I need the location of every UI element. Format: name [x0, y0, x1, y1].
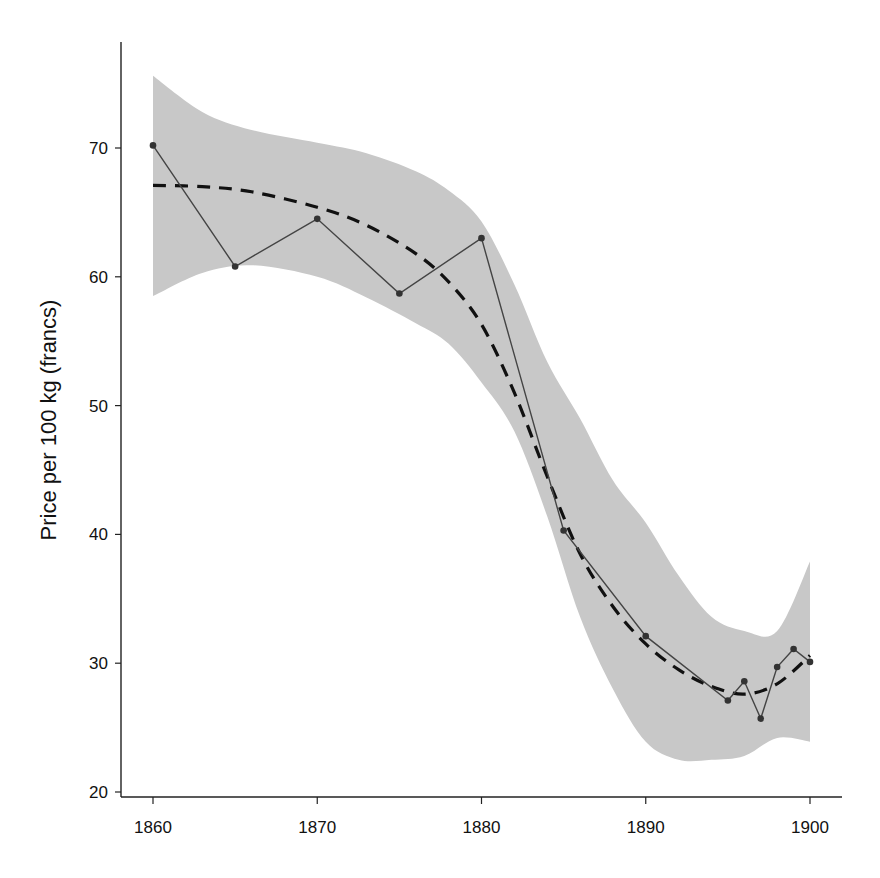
- data-point: [741, 678, 748, 685]
- confidence-band: [153, 76, 810, 761]
- data-point: [642, 633, 649, 640]
- chart: 203040506070 18601870188018901900 Price …: [0, 0, 880, 878]
- y-tick-label: 40: [89, 525, 108, 544]
- y-tick-label: 60: [89, 268, 108, 287]
- y-tick-label: 30: [89, 654, 108, 673]
- data-point: [560, 527, 567, 534]
- confidence-band-area: [153, 76, 810, 761]
- y-tick-label: 20: [89, 783, 108, 802]
- data-point: [232, 263, 239, 270]
- x-tick-label: 1900: [791, 818, 829, 837]
- y-axis-ticks: 203040506070: [89, 139, 121, 802]
- data-point: [774, 664, 781, 671]
- data-point: [757, 715, 764, 722]
- x-tick-label: 1860: [134, 818, 172, 837]
- data-point: [790, 646, 797, 653]
- data-point: [807, 659, 814, 666]
- x-tick-label: 1880: [463, 818, 501, 837]
- x-tick-label: 1870: [298, 818, 336, 837]
- data-point: [725, 697, 732, 704]
- y-tick-label: 50: [89, 397, 108, 416]
- x-tick-label: 1890: [627, 818, 665, 837]
- y-tick-label: 70: [89, 139, 108, 158]
- data-point: [478, 235, 485, 242]
- data-point: [396, 290, 403, 297]
- y-axis-title: Price per 100 kg (francs): [36, 300, 61, 541]
- data-point: [314, 216, 321, 223]
- data-point: [150, 142, 157, 149]
- x-axis-ticks: 18601870188018901900: [134, 797, 829, 837]
